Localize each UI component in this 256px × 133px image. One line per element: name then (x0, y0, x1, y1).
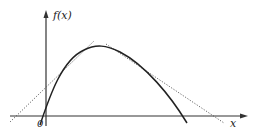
x-axis-label: x (230, 117, 237, 130)
x-axis-arrow-icon (240, 114, 248, 119)
origin-label: 0 (37, 118, 44, 129)
concave-function-diagram: f(x) x 0 (0, 0, 256, 133)
y-axis-label: f(x) (52, 9, 72, 22)
function-curve (40, 46, 187, 125)
left-tangent-line (10, 41, 94, 122)
right-tangent-line (106, 44, 224, 123)
y-axis-arrow-icon (44, 10, 49, 18)
